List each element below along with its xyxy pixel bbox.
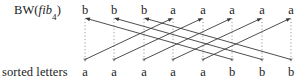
top-row-label: BW(fib4) bbox=[14, 4, 61, 17]
bottom-row-letter: a bbox=[107, 66, 121, 79]
dotted-edges-group bbox=[83, 19, 293, 62]
dotted-edge-arrowhead-down-icon bbox=[230, 59, 234, 62]
top-row-label-italic: fib bbox=[39, 3, 53, 17]
dotted-edge-arrowhead-down-icon bbox=[260, 59, 264, 62]
bottom-row-letter: a bbox=[78, 66, 92, 79]
dotted-edge-arrowhead-down-icon bbox=[201, 59, 205, 62]
top-row-letter: a bbox=[255, 4, 269, 17]
bottom-row-letter: a bbox=[196, 66, 210, 79]
dotted-edge-arrowhead-down-icon bbox=[112, 59, 116, 62]
diagonal-edge-arrowhead-icon bbox=[257, 18, 262, 22]
bottom-row-label: sorted letters bbox=[2, 66, 68, 79]
diagonal-edge bbox=[148, 19, 291, 59]
diagonal-edge bbox=[89, 19, 232, 59]
diagonal-edge-arrowhead-icon bbox=[168, 18, 173, 22]
bwt-lf-mapping-figure: BW(fib4) sorted letters bbbaaaaaaaaaabbb bbox=[0, 0, 303, 82]
top-row-letter: b bbox=[78, 4, 92, 17]
top-row-letter: a bbox=[196, 4, 210, 17]
diagonal-edge-arrowhead-icon bbox=[144, 18, 149, 22]
top-row-letter: a bbox=[225, 4, 239, 17]
dotted-edge-arrowhead-down-icon bbox=[142, 59, 146, 62]
diagonal-edge-arrowhead-icon bbox=[286, 18, 291, 22]
top-row-letter: a bbox=[166, 4, 180, 17]
bottom-row-letter: b bbox=[255, 66, 269, 79]
top-row-label-subscript: 4 bbox=[52, 12, 57, 22]
top-row-label-suffix: ) bbox=[57, 3, 61, 17]
bottom-row-letter: a bbox=[166, 66, 180, 79]
top-row-letter: b bbox=[107, 4, 121, 17]
bottom-row-letter: b bbox=[225, 66, 239, 79]
dotted-edge-arrowhead-down-icon bbox=[289, 59, 293, 62]
diagonal-edges-group bbox=[85, 18, 291, 60]
dotted-edge-arrowhead-down-icon bbox=[171, 59, 175, 62]
diagonal-edge bbox=[114, 20, 199, 60]
diagonal-edge-arrowhead-icon bbox=[227, 18, 232, 22]
top-row-letter: a bbox=[284, 4, 298, 17]
bottom-row-letter: b bbox=[284, 66, 298, 79]
diagonal-edge bbox=[144, 20, 228, 60]
diagonal-edge-arrowhead-icon bbox=[198, 18, 203, 22]
diagonal-edge-arrowhead-icon bbox=[85, 18, 90, 22]
top-row-label-prefix: BW( bbox=[14, 3, 39, 17]
diagonal-edge bbox=[85, 20, 169, 60]
diagonal-edge bbox=[118, 19, 262, 59]
diagonal-edge bbox=[173, 20, 258, 60]
top-row-letter: b bbox=[137, 4, 151, 17]
dotted-edge-arrowhead-down-icon bbox=[83, 59, 87, 62]
diagonal-edge-arrowhead-icon bbox=[114, 18, 119, 22]
diagonal-edge bbox=[203, 20, 287, 60]
bottom-row-letter: a bbox=[137, 66, 151, 79]
